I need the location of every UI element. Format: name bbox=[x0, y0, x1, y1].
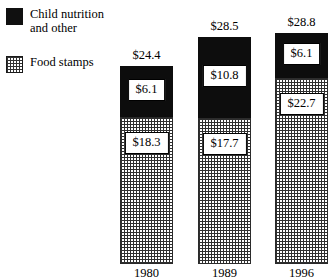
bar-total-label: $28.8 bbox=[275, 16, 328, 29]
bar-segment-child-nutrition: $6.1 bbox=[275, 33, 328, 78]
bar-group-1980: $24.4 $6.1 $18.3 1980 bbox=[120, 66, 173, 264]
segment-value-label: $18.3 bbox=[124, 132, 168, 154]
bar-total-label: $24.4 bbox=[120, 49, 173, 62]
x-axis-tick-label: 1989 bbox=[198, 267, 251, 280]
bar-segment-food-stamps: $17.7 bbox=[198, 118, 251, 264]
x-axis-tick-label: 1996 bbox=[275, 267, 328, 280]
bar-segment-child-nutrition: $6.1 bbox=[120, 66, 173, 117]
x-axis-tick-label: 1980 bbox=[120, 267, 173, 280]
segment-value-label: $6.1 bbox=[128, 79, 166, 101]
plot-area: $24.4 $6.1 $18.3 1980 $28.5 $10.8 $17.7 … bbox=[0, 0, 330, 280]
bar-segment-food-stamps: $22.7 bbox=[275, 78, 328, 264]
segment-value-label: $17.7 bbox=[202, 133, 246, 155]
bar-segment-food-stamps: $18.3 bbox=[120, 117, 173, 264]
segment-value-label: $6.1 bbox=[283, 43, 321, 65]
stacked-bar-chart: Child nutrition and other Food stamps $2… bbox=[0, 0, 330, 280]
bar-total-label: $28.5 bbox=[198, 20, 251, 33]
segment-value-label: $10.8 bbox=[202, 65, 246, 87]
bar-group-1996: $28.8 $6.1 $22.7 1996 bbox=[275, 33, 328, 264]
bar-segment-child-nutrition: $10.8 bbox=[198, 37, 251, 118]
segment-value-label: $22.7 bbox=[279, 93, 323, 115]
bar-group-1989: $28.5 $10.8 $17.7 1989 bbox=[198, 37, 251, 264]
